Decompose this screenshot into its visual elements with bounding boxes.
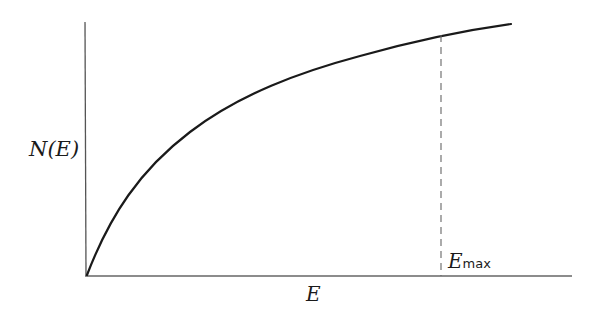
y-axis [85, 22, 86, 276]
x-axis-label: E [306, 282, 321, 306]
chart-figure: N(E) E Emax [0, 0, 595, 319]
y-axis-label-text: N(E) [29, 137, 79, 161]
chart-canvas [0, 0, 595, 319]
emax-label: Emax [448, 249, 491, 273]
emax-label-main: E [448, 249, 463, 273]
y-axis-label: N(E) [29, 137, 79, 161]
x-axis-label-text: E [306, 282, 321, 306]
n-of-e-curve [87, 24, 511, 275]
emax-label-subscript: max [463, 256, 491, 271]
